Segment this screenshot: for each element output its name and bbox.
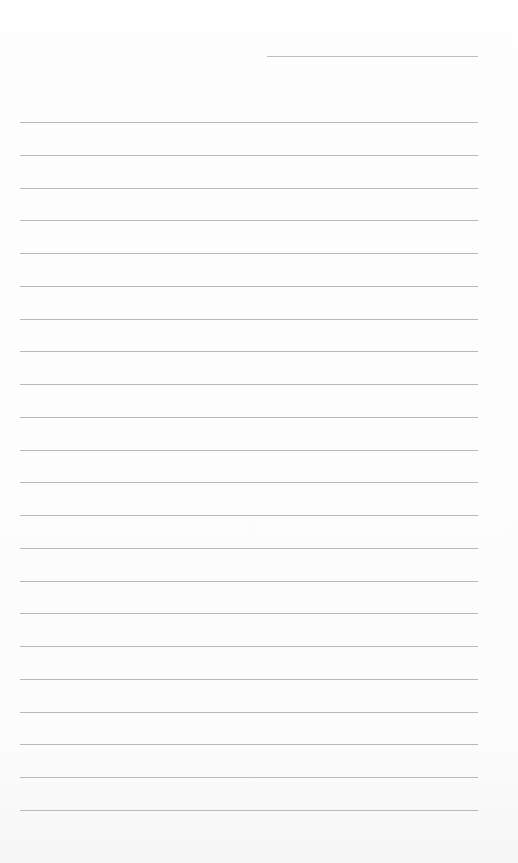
ruled-line: [20, 548, 478, 549]
ruled-line: [20, 482, 478, 483]
ruled-line: [20, 613, 478, 614]
ruled-line: [20, 384, 478, 385]
ruled-line: [20, 253, 478, 254]
ruled-line: [20, 155, 478, 156]
ruled-line: [20, 450, 478, 451]
ruled-line: [20, 679, 478, 680]
ruled-line: [20, 646, 478, 647]
ruled-line: [20, 351, 478, 352]
ruled-line: [20, 515, 478, 516]
ruled-line: [20, 777, 478, 778]
ruled-line: [20, 417, 478, 418]
ruled-line: [20, 744, 478, 745]
ruled-line: [20, 712, 478, 713]
ruled-line: [20, 581, 478, 582]
ruled-line: [20, 286, 478, 287]
ruled-line: [20, 122, 478, 123]
header-name-line: [267, 56, 478, 57]
ruled-line: [20, 188, 478, 189]
lined-paper-sheet: [0, 0, 518, 863]
ruled-line: [20, 810, 478, 811]
ruled-line: [20, 220, 478, 221]
ruled-line: [20, 319, 478, 320]
